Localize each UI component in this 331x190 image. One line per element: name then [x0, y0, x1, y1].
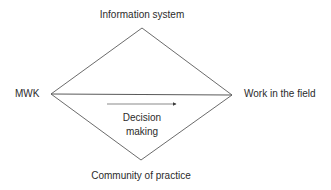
decision-making-line2: making	[102, 125, 182, 139]
decision-making-label: Decision making	[102, 111, 182, 139]
decision-making-line1: Decision	[102, 111, 182, 125]
diagram-canvas: Information system MWK Work in the field…	[0, 0, 331, 190]
node-label-community-of-practice: Community of practice	[0, 170, 282, 182]
horizontal-axis-line	[51, 94, 232, 95]
node-label-work-in-the-field: Work in the field	[244, 88, 316, 100]
node-label-mwk: MWK	[15, 88, 39, 100]
node-label-information-system: Information system	[0, 9, 284, 21]
